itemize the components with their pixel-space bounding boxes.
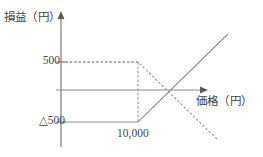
y-axis-title: 損益（円） [4,12,60,24]
payoff-chart: 損益（円） 価格（円） 500 △500 10,000 [0,0,263,157]
x-axis-title: 価格（円） [196,96,252,108]
y-tick-label-upper: 500 [43,55,60,67]
x-axis-arrow-icon [200,87,208,94]
y-tick-label-lower: △500 [39,115,65,127]
series-solid-long-payoff [61,34,228,122]
x-tick-label-strike: 10,000 [117,128,149,140]
